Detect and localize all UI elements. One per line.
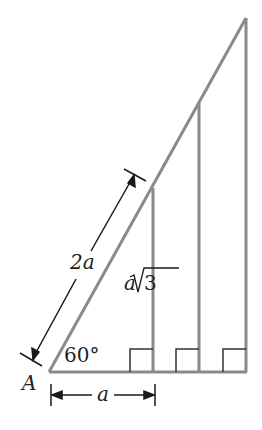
vertex-label: A (20, 371, 36, 395)
right-angle-marker-1 (130, 349, 153, 372)
dimension-tick-bottom (20, 353, 42, 366)
dimension-line-upper (91, 177, 133, 251)
height-label-radical: 3 (144, 271, 157, 295)
height-label-var: a (124, 271, 136, 295)
angle-label: 60° (64, 343, 99, 367)
arrow-right-icon (144, 391, 154, 399)
hypotenuse-label: 2a (69, 250, 95, 274)
right-angle-marker-3 (223, 349, 246, 372)
hypotenuse-line (49, 18, 246, 372)
triangle-lines (49, 18, 247, 372)
right-angle-marker-2 (176, 349, 199, 372)
arrow-left-icon (52, 391, 62, 399)
similar-triangles-diagram: A 60° 2a a 3 a (0, 0, 262, 430)
base-label: a (97, 382, 109, 406)
right-angle-markers (130, 349, 246, 372)
